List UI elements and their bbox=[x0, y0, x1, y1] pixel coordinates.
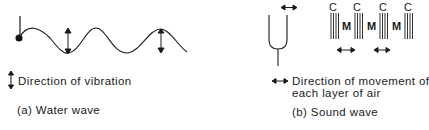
rarefaction-label: M bbox=[367, 20, 376, 32]
compression-label: C bbox=[379, 1, 387, 13]
movement-legend-line2: each layer of air bbox=[292, 87, 381, 100]
horizontal-double-arrow-icon bbox=[374, 48, 390, 53]
horizontal-double-arrow-icon bbox=[281, 5, 297, 10]
rarefaction-label: M bbox=[342, 20, 351, 32]
compression-label: C bbox=[353, 1, 361, 13]
compression-label: C bbox=[404, 1, 412, 13]
horizontal-double-arrow-icon bbox=[337, 48, 355, 53]
sound-wave-caption: (b) Sound wave bbox=[292, 106, 378, 119]
compression-label: C bbox=[329, 1, 337, 13]
legend-horizontal-arrow-icon bbox=[272, 79, 288, 84]
rarefaction-label: M bbox=[392, 20, 401, 32]
tuning-fork-icon bbox=[269, 15, 287, 66]
